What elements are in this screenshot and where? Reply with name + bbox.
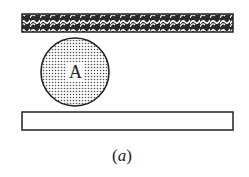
top-plate xyxy=(22,14,233,32)
caption-letter: a xyxy=(118,146,127,165)
bottom-plate xyxy=(22,112,233,130)
caption-close-paren: ) xyxy=(126,146,132,165)
figure-caption: (a) xyxy=(112,146,132,166)
ball-label: A xyxy=(69,62,82,83)
